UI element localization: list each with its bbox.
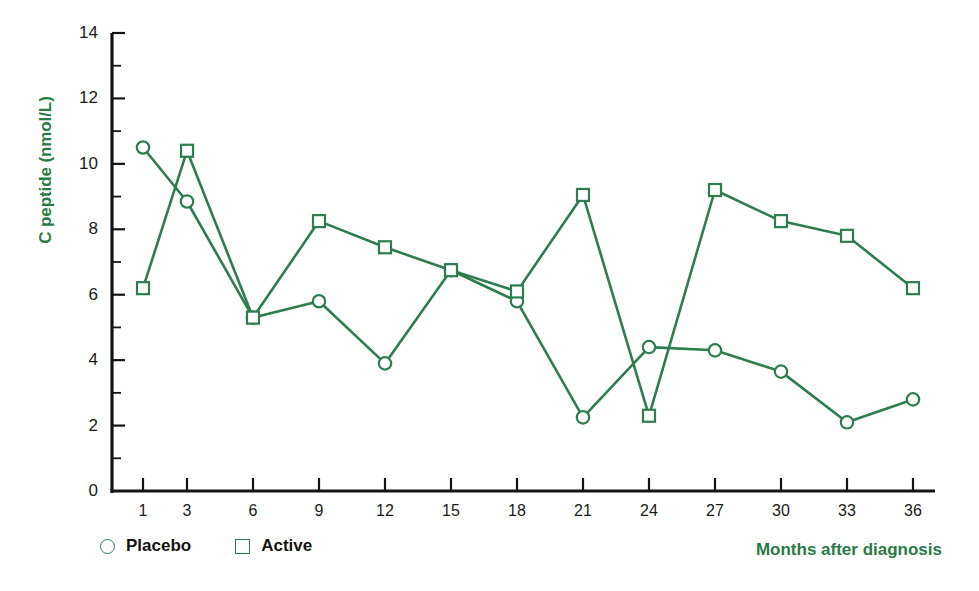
data-point-marker-placebo xyxy=(379,357,391,369)
x-axis-tick-label: 24 xyxy=(629,502,669,520)
legend-item-active: Active xyxy=(235,536,312,556)
x-axis-tick-label: 6 xyxy=(233,502,273,520)
data-point-marker-placebo xyxy=(709,344,721,356)
data-point-marker-placebo xyxy=(137,141,149,153)
legend-item-placebo: Placebo xyxy=(100,536,191,556)
y-axis-tick-label: 0 xyxy=(64,481,98,501)
data-point-marker-placebo xyxy=(577,411,589,423)
y-axis-tick-label: 6 xyxy=(64,285,98,305)
x-axis-tick-label: 33 xyxy=(827,502,867,520)
data-point-marker-active xyxy=(577,189,589,201)
x-axis-tick-label: 15 xyxy=(431,502,471,520)
chart-legend: Placebo Active xyxy=(100,536,312,556)
data-point-marker-active xyxy=(445,264,457,276)
data-point-marker-active xyxy=(181,145,193,157)
legend-label-active: Active xyxy=(261,536,312,556)
x-axis-tick-label: 1 xyxy=(123,502,163,520)
x-axis-tick-label: 30 xyxy=(761,502,801,520)
data-point-marker-placebo xyxy=(181,195,193,207)
x-axis-tick-label: 36 xyxy=(893,502,933,520)
data-point-marker-placebo xyxy=(907,393,919,405)
data-point-marker-active xyxy=(137,282,149,294)
x-axis-tick-label: 12 xyxy=(365,502,405,520)
y-axis-tick-label: 12 xyxy=(64,88,98,108)
data-point-marker-placebo xyxy=(643,341,655,353)
data-point-marker-active xyxy=(511,285,523,297)
data-point-marker-placebo xyxy=(313,295,325,307)
y-axis-tick-label: 10 xyxy=(64,154,98,174)
data-point-marker-active xyxy=(247,312,259,324)
series-line-active xyxy=(143,151,913,416)
legend-label-placebo: Placebo xyxy=(126,536,191,556)
y-axis-tick-label: 2 xyxy=(64,416,98,436)
series-line-placebo xyxy=(143,148,913,423)
c-peptide-line-chart: C peptide (nmol/L) 02468101214 136912151… xyxy=(0,0,979,591)
y-axis-tick-label: 14 xyxy=(64,23,98,43)
data-point-marker-placebo xyxy=(775,365,787,377)
x-axis-tick-label: 18 xyxy=(497,502,537,520)
data-point-marker-active xyxy=(709,184,721,196)
data-point-marker-placebo xyxy=(841,416,853,428)
data-point-marker-active xyxy=(643,410,655,422)
x-axis-tick-label: 9 xyxy=(299,502,339,520)
x-axis-tick-label: 21 xyxy=(563,502,603,520)
circle-marker-icon xyxy=(100,539,115,554)
y-axis-title: C peptide (nmol/L) xyxy=(36,20,56,320)
square-marker-icon xyxy=(235,539,250,554)
y-axis-tick-label: 8 xyxy=(64,219,98,239)
x-axis-title: Months after diagnosis xyxy=(756,540,942,560)
data-point-marker-active xyxy=(841,230,853,242)
data-point-marker-active xyxy=(379,241,391,253)
y-axis-tick-label: 4 xyxy=(64,350,98,370)
x-axis-tick-label: 27 xyxy=(695,502,735,520)
data-point-marker-active xyxy=(313,215,325,227)
x-axis-tick-label: 3 xyxy=(167,502,207,520)
data-point-marker-active xyxy=(907,282,919,294)
data-point-marker-active xyxy=(775,215,787,227)
